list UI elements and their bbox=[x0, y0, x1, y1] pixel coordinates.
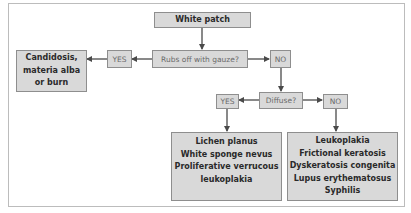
result-line: Dyskeratosis congenita bbox=[290, 160, 396, 173]
result-line: leukoplakia bbox=[201, 174, 253, 187]
node-diffuse-question: Diffuse? bbox=[259, 92, 303, 109]
result-line: Leukoplakia bbox=[315, 135, 369, 148]
result-line: materia alba bbox=[23, 65, 80, 78]
result-line: Syphilis bbox=[325, 185, 360, 198]
node-q2-yes: YES bbox=[216, 94, 239, 109]
node-q1-yes: YES bbox=[107, 50, 132, 68]
result-line: Candidosis, bbox=[26, 52, 78, 65]
node-q2-no: NO bbox=[323, 94, 348, 109]
node-result-candidosis: Candidosis, materia alba or burn bbox=[16, 50, 87, 92]
node-white-patch: White patch bbox=[154, 12, 251, 28]
node-rubs-off-question: Rubs off with gauze? bbox=[152, 50, 248, 68]
node-result-lichen: Lichen planus White sponge nevus Prolife… bbox=[171, 132, 282, 201]
result-line: White sponge nevus bbox=[181, 149, 273, 162]
result-line: Frictional keratosis bbox=[299, 148, 386, 161]
result-line: Lupus erythematosus bbox=[294, 173, 392, 186]
result-line: Lichen planus bbox=[195, 136, 257, 149]
node-q1-no: NO bbox=[270, 50, 291, 68]
result-line: or burn bbox=[35, 77, 68, 90]
node-result-leukoplakia: Leukoplakia Frictional keratosis Dyskera… bbox=[287, 132, 398, 201]
result-line: Proliferative verrucous bbox=[175, 161, 279, 174]
